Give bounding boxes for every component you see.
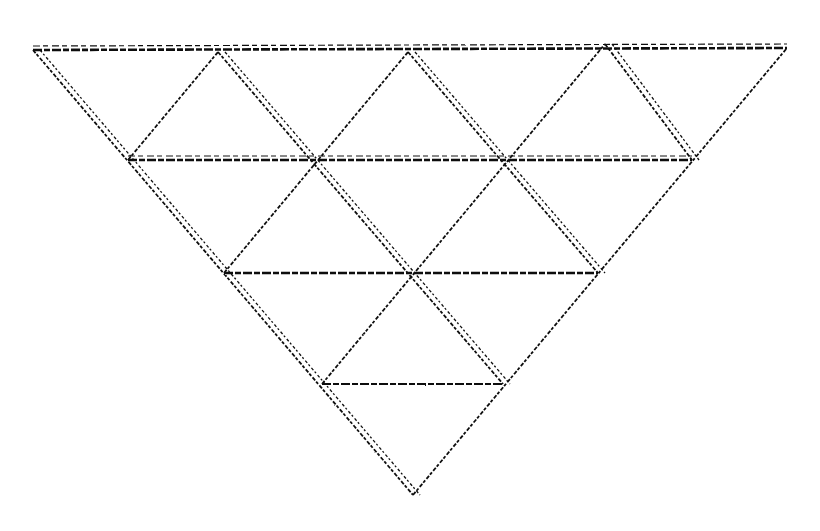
ascending-edges (128, 44, 787, 495)
ascending-edge (128, 52, 218, 160)
descending-edge (408, 52, 598, 273)
horizontal-edge-shadow (33, 44, 787, 46)
descending-edge (605, 44, 692, 160)
ascending-edge (322, 44, 605, 384)
descending-edges (33, 44, 699, 495)
descending-edge-shadow (612, 44, 699, 160)
ascending-edge (413, 48, 787, 495)
horizontal-edge (33, 48, 787, 50)
horizontal-edges (33, 44, 787, 384)
descending-edge-shadow (415, 52, 605, 273)
descending-edge (33, 50, 413, 495)
triangular-lattice-diagram (0, 0, 820, 531)
